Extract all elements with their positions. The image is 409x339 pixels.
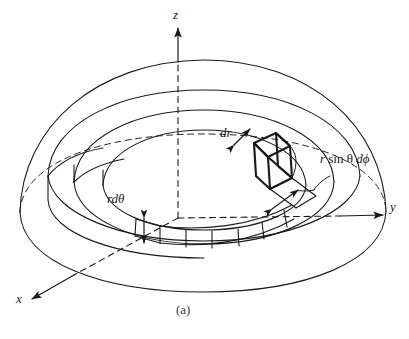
rsinthetadphi-leader-2 (314, 176, 330, 190)
cutaway-shelf-front-arc (48, 176, 360, 241)
figure-caption: (a) (176, 303, 190, 316)
figure-container: z y x dr rdθ r sin θ dϕ (a) (0, 0, 409, 339)
y-axis-hidden (178, 216, 340, 218)
rsin-sin-word: sin (328, 151, 343, 166)
cutaway-shelf-outer-arc (48, 90, 360, 176)
ring-inner-bottom-arc (103, 185, 306, 230)
dr-arrow (234, 129, 250, 145)
r-d-theta-label: rdθ (107, 192, 124, 205)
rsin-phi: ϕ (363, 151, 370, 166)
cut-wall-left-edge-b (74, 159, 124, 182)
cell-divider-4 (238, 229, 239, 246)
x-axis-label: x (16, 292, 22, 305)
x-axis-line (32, 275, 74, 299)
dr-label: dr (220, 126, 232, 139)
y-axis-line (340, 215, 383, 216)
element-top-face (254, 133, 290, 157)
cut-wall-outer-left (48, 176, 204, 258)
cell-band-left-top (136, 219, 160, 226)
r-sin-theta-d-phi-label: r sin θ dϕ (320, 152, 369, 165)
element-inner-line-a (256, 176, 270, 189)
z-axis-label: z (173, 8, 178, 21)
y-axis-label: y (390, 200, 396, 213)
hemisphere-volume-element-diagram (0, 0, 409, 339)
outer-base-front-arc (20, 211, 386, 292)
cell-band-bottom (160, 219, 294, 245)
cell-divider-0 (135, 219, 136, 236)
element-radial-edge (268, 157, 292, 178)
